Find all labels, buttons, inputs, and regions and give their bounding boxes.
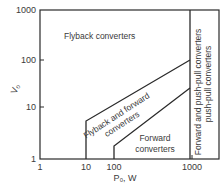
x-tick-label: 1000 xyxy=(182,162,202,172)
chart: 1000 100 10 1 V₀ 1 10 100 1000 P₀, W Fly… xyxy=(0,0,223,194)
y-axis: 1000 100 10 1 V₀ xyxy=(9,5,44,164)
svg-text:Forward and push-pull converte: Forward and push-pull converters xyxy=(193,29,203,156)
y-tick-label: 1000 xyxy=(16,5,36,15)
svg-text:Forward: Forward xyxy=(139,133,170,143)
y-tick-label: 1 xyxy=(31,154,36,164)
x-tick-label: 1 xyxy=(37,162,42,172)
y-tick-label: 100 xyxy=(21,55,36,65)
y-axis-title: V₀ xyxy=(9,82,22,95)
region-label-forward: Forward converters xyxy=(135,133,175,154)
x-tick-label: 100 xyxy=(106,162,121,172)
region-label-flyback: Flyback converters xyxy=(64,31,135,41)
svg-text:converters: converters xyxy=(135,144,175,154)
region-label-push-pull: Forward and push-pull converters push-pu… xyxy=(193,29,213,156)
x-axis-title: P₀, W xyxy=(113,173,137,183)
x-tick-label: 10 xyxy=(81,162,91,172)
svg-text:push-pull converters: push-pull converters xyxy=(203,46,213,123)
y-tick-label: 10 xyxy=(26,102,36,112)
